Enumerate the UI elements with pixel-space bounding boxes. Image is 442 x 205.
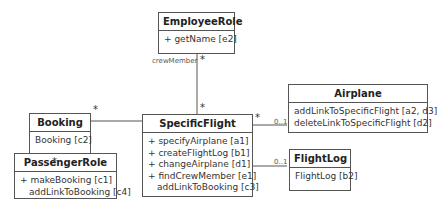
operation: deleteLinkToSpecificFlight [d2] [294,118,422,130]
multiplicity-flight-log: 0..1 [274,158,287,166]
class-name: EmployeeRole [159,13,234,31]
multiplicity-employee: * [200,54,205,65]
class-name: Booking [30,114,90,132]
operation: Booking [c2] [35,135,85,147]
class-booking[interactable]: Booking Booking [c2] [29,113,91,154]
operation: + changeAirplane [d1] [148,159,247,171]
multiplicity-booking-flight: * [93,104,98,115]
operation: FlightLog [b2] [295,171,345,183]
class-name: SpecificFlight [143,115,252,133]
operation: + getName [e2] [164,34,229,46]
class-employee-role[interactable]: EmployeeRole + getName [e2] [158,12,235,54]
multiplicity-flight-airplane: * [255,112,260,123]
class-flight-log[interactable]: FlightLog FlightLog [b2] [289,149,351,191]
operation: + makeBooking [c1] [20,175,111,187]
operation: + createFlightLog [b1] [148,148,247,160]
class-name: Airplane [289,85,427,103]
operation: addLinkToBooking [c3] [148,182,247,194]
role-label-crew-member: crewMember [152,57,197,65]
class-name: FlightLog [290,150,350,168]
multiplicity-booking-passenger: * [52,156,57,167]
class-name: PassengerRole [15,154,116,172]
operation: addLinkToSpecificFlight [a2, d3] [294,106,422,118]
multiplicity-airplane: 0..1 [274,118,287,126]
operation: + specifyAirplane [a1] [148,136,247,148]
class-specific-flight[interactable]: SpecificFlight + specifyAirplane [a1] + … [142,114,253,197]
multiplicity-flight-crew: * [200,102,205,113]
class-airplane[interactable]: Airplane addLinkToSpecificFlight [a2, d3… [288,84,428,133]
operation: addLinkToBooking [c4] [20,187,111,199]
class-passenger-role[interactable]: PassengerRole + makeBooking [c1] addLink… [14,153,117,199]
operation: + findCrewMember [e1] [148,171,247,183]
